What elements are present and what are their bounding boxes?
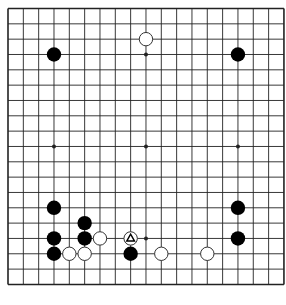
white-stone-shape bbox=[63, 247, 76, 260]
white-stone-shape bbox=[139, 32, 152, 45]
go-board[interactable] bbox=[0, 0, 286, 305]
black-stone[interactable] bbox=[231, 47, 245, 61]
white-stone[interactable] bbox=[63, 247, 76, 260]
black-stone-shape bbox=[77, 231, 91, 245]
white-stone[interactable] bbox=[93, 232, 106, 245]
black-stone[interactable] bbox=[231, 231, 245, 245]
star-point bbox=[236, 144, 240, 148]
black-stone[interactable] bbox=[77, 216, 91, 230]
black-stone-shape bbox=[47, 201, 61, 215]
star-point bbox=[52, 144, 56, 148]
white-stone-shape bbox=[155, 247, 168, 260]
white-stone[interactable] bbox=[124, 232, 137, 245]
white-stone[interactable] bbox=[155, 247, 168, 260]
black-stone-shape bbox=[77, 216, 91, 230]
star-point bbox=[144, 52, 148, 56]
black-stone[interactable] bbox=[47, 201, 61, 215]
star-point bbox=[144, 236, 148, 240]
white-stone[interactable] bbox=[201, 247, 214, 260]
black-stone[interactable] bbox=[47, 47, 61, 61]
black-stone-shape bbox=[47, 47, 61, 61]
black-stone[interactable] bbox=[47, 247, 61, 261]
white-stone-shape bbox=[201, 247, 214, 260]
black-stone[interactable] bbox=[231, 201, 245, 215]
black-stone-shape bbox=[47, 231, 61, 245]
black-stone-shape bbox=[231, 47, 245, 61]
star-point bbox=[144, 144, 148, 148]
black-stone[interactable] bbox=[123, 247, 137, 261]
board-background bbox=[0, 0, 286, 305]
black-stone-shape bbox=[47, 247, 61, 261]
black-stone-shape bbox=[123, 247, 137, 261]
white-stone[interactable] bbox=[139, 32, 152, 45]
black-stone-shape bbox=[231, 231, 245, 245]
white-stone[interactable] bbox=[78, 247, 91, 260]
white-stone-shape bbox=[93, 232, 106, 245]
black-stone[interactable] bbox=[47, 231, 61, 245]
black-stone[interactable] bbox=[77, 231, 91, 245]
black-stone-shape bbox=[231, 201, 245, 215]
white-stone-shape bbox=[78, 247, 91, 260]
